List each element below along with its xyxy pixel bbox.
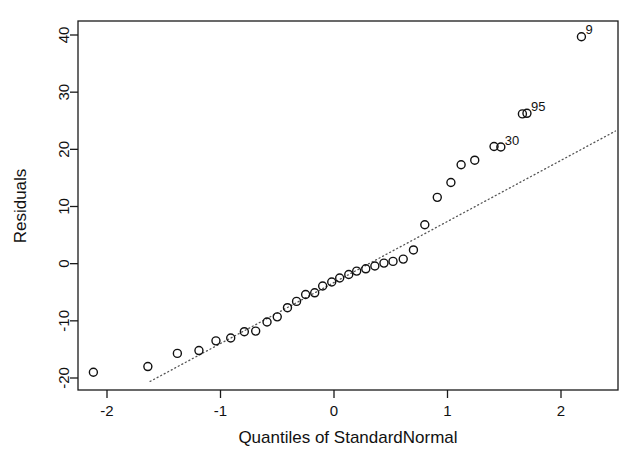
axes-frame xyxy=(78,21,618,390)
x-tick-label: 0 xyxy=(330,402,338,419)
data-point-marker xyxy=(311,289,319,297)
y-tick-label: -10 xyxy=(55,310,72,332)
x-axis-title: Quantiles of StandardNormal xyxy=(238,428,457,447)
data-point-marker xyxy=(371,262,379,270)
qq-plot-canvas: -2-1012-20-10010203040 99530 Quantiles o… xyxy=(0,0,639,471)
data-point-marker xyxy=(353,267,361,275)
y-tick-label: -20 xyxy=(55,367,72,389)
data-point-marker xyxy=(336,274,344,282)
data-point-marker xyxy=(252,327,260,335)
qq-plot-figure: -2-1012-20-10010203040 99530 Quantiles o… xyxy=(0,0,639,471)
data-point-marker xyxy=(380,259,388,267)
data-point-marker xyxy=(433,193,441,201)
x-tick-label: -1 xyxy=(214,402,227,419)
data-point-marker xyxy=(195,347,203,355)
data-point-marker xyxy=(389,257,397,265)
data-point-marker xyxy=(577,33,585,41)
x-tick-label: 2 xyxy=(557,402,565,419)
data-point-marker xyxy=(273,313,281,321)
axis-ticks xyxy=(70,35,561,398)
data-points xyxy=(89,33,585,377)
point-id-label: 9 xyxy=(585,22,592,37)
data-point-marker xyxy=(447,178,455,186)
reference-line xyxy=(150,131,615,381)
axis-tick-labels: -2-1012-20-10010203040 xyxy=(55,27,565,419)
data-point-marker xyxy=(457,161,465,169)
y-tick-label: 20 xyxy=(55,141,72,158)
data-point-marker xyxy=(89,368,97,376)
data-point-marker xyxy=(421,221,429,229)
reference-line-group xyxy=(150,131,615,381)
y-tick-label: 30 xyxy=(55,84,72,101)
data-point-marker xyxy=(212,337,220,345)
point-id-label: 95 xyxy=(531,99,545,114)
x-tick-label: -2 xyxy=(100,402,113,419)
data-point-marker xyxy=(409,246,417,254)
data-point-marker xyxy=(173,349,181,357)
point-id-label: 30 xyxy=(505,133,519,148)
y-tick-label: 10 xyxy=(55,198,72,215)
data-point-marker xyxy=(399,255,407,263)
y-axis-title: Residuals xyxy=(11,169,30,244)
data-point-marker xyxy=(144,363,152,371)
y-tick-label: 0 xyxy=(55,259,72,267)
plot-frame xyxy=(78,21,618,390)
x-tick-label: 1 xyxy=(443,402,451,419)
y-tick-label: 40 xyxy=(55,27,72,44)
data-point-marker xyxy=(471,156,479,164)
